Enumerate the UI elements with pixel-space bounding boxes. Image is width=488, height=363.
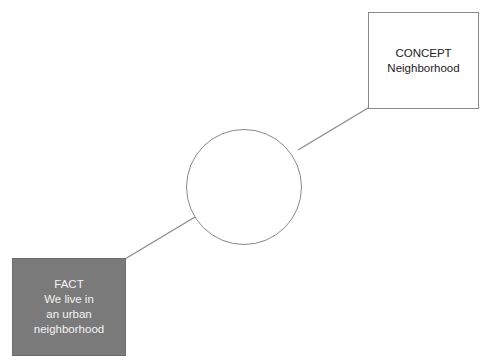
fact-box: FACT We live in an urban neighborhood bbox=[12, 258, 126, 356]
fact-text-line-1: We live in bbox=[44, 292, 94, 307]
concept-title: CONCEPT bbox=[395, 46, 451, 61]
fact-title: FACT bbox=[54, 277, 83, 292]
concept-box: CONCEPT Neighborhood bbox=[368, 12, 479, 109]
fact-text-line-3: neighborhood bbox=[34, 322, 104, 337]
connector-fact-to-circle bbox=[125, 217, 195, 259]
fact-text-line-2: an urban bbox=[46, 307, 91, 322]
concept-text: Neighborhood bbox=[387, 61, 459, 76]
connector-concept-to-circle bbox=[298, 108, 368, 150]
center-circle-node bbox=[186, 129, 302, 245]
